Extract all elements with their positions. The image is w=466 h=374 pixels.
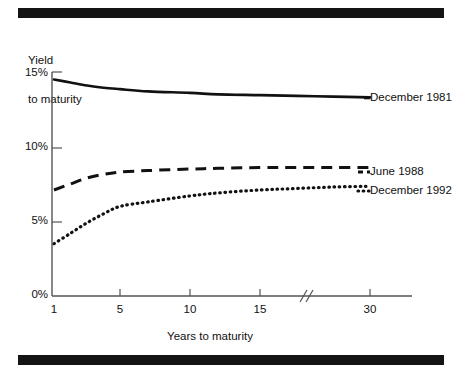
- axes: [52, 72, 412, 296]
- x-axis-ticks: [120, 289, 370, 296]
- plot-area: [0, 0, 466, 374]
- series-line-december-1992: [54, 186, 370, 243]
- legend-connector-group: [358, 98, 370, 191]
- data-series-group: [54, 79, 370, 243]
- chart-figure: Yield to maturity Years to maturity 15% …: [0, 0, 466, 374]
- y-axis-ticks: [52, 72, 62, 222]
- series-line-december-1981: [54, 79, 370, 97]
